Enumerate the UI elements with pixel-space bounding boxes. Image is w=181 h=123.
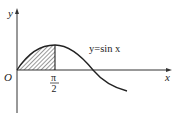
function-label: y=sin x bbox=[89, 43, 121, 54]
pi-numerator: π bbox=[51, 72, 56, 83]
pi-denominator: 2 bbox=[52, 83, 57, 94]
y-axis-arrow-icon bbox=[15, 8, 19, 14]
x-axis-label: x bbox=[164, 71, 170, 83]
y-axis-label: y bbox=[7, 7, 13, 19]
shaded-area bbox=[17, 45, 55, 70]
origin-label: O bbox=[4, 71, 12, 83]
sine-graph: y x O π 2 y=sin x bbox=[0, 0, 181, 123]
